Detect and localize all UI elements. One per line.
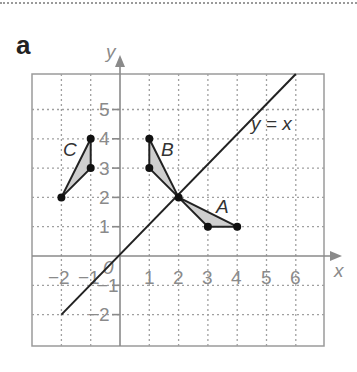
svg-text:5: 5 <box>99 99 110 120</box>
label-b: B <box>161 139 174 160</box>
label-a: A <box>215 196 229 217</box>
svg-text:−2: −2 <box>48 267 70 288</box>
coordinate-plane: y x 0 −2 −1 1 2 3 4 5 6 5 4 3 2 1 −1 −2 … <box>0 0 357 372</box>
svg-text:5: 5 <box>261 267 272 288</box>
svg-text:3: 3 <box>202 267 213 288</box>
label-c: C <box>63 139 77 160</box>
svg-text:1: 1 <box>99 216 110 237</box>
x-axis-label: x <box>333 260 345 281</box>
svg-text:6: 6 <box>290 267 301 288</box>
x-tick-labels: −2 −1 1 2 3 4 5 6 <box>48 267 301 288</box>
svg-text:2: 2 <box>99 187 110 208</box>
svg-text:1: 1 <box>144 267 155 288</box>
svg-text:−1: −1 <box>97 275 119 296</box>
svg-text:4: 4 <box>231 267 242 288</box>
y-tick-labels: 5 4 3 2 1 −1 −2 <box>88 99 119 325</box>
svg-text:2: 2 <box>173 267 184 288</box>
line-label: y = x <box>249 113 293 134</box>
y-axis-label: y <box>104 41 117 62</box>
svg-text:4: 4 <box>99 128 110 149</box>
y-axis-arrow-icon <box>115 55 125 67</box>
svg-text:3: 3 <box>99 158 110 179</box>
svg-text:−2: −2 <box>88 304 110 325</box>
